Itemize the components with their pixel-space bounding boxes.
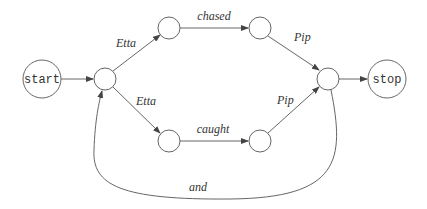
state-n2 [158,17,180,39]
edge-label-caught: caught [197,122,230,136]
start-label: start [24,73,60,87]
state-n5 [249,130,271,152]
edge-label-chased: chased [197,9,231,23]
state-n1 [94,68,116,90]
fsa-diagram: start stop Etta Etta chased caught Pip P… [0,0,427,209]
edge-label-and: and [189,180,208,194]
edge-n6-n1-and [94,90,337,199]
state-n3 [249,17,271,39]
stop-label: stop [373,73,402,87]
edge-label-pip-top: Pip [293,30,311,44]
edge-label-etta-top: Etta [115,36,136,50]
edge-label-pip-bottom: Pip [276,93,294,107]
edge-label-etta-bottom: Etta [135,94,156,108]
state-n6 [317,68,339,90]
state-n4 [158,130,180,152]
